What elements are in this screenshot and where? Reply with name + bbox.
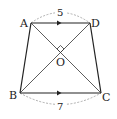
- vertex-label-A: A: [19, 17, 29, 30]
- parallel-arrow-icon: [57, 91, 62, 96]
- vertex-label-B: B: [9, 89, 17, 102]
- top-length-label: 5: [57, 7, 63, 18]
- center-label-O: O: [56, 56, 65, 69]
- right-angle-icon: [57, 46, 64, 53]
- vertex-label-C: C: [102, 91, 110, 104]
- bottom-length-label: 7: [57, 101, 63, 112]
- vertex-label-D: D: [91, 17, 100, 30]
- trapezoid-diagram: A D B C O 5 7: [0, 0, 117, 119]
- diagonal-AC: [31, 23, 101, 93]
- side-AB: [20, 23, 31, 93]
- side-DC: [90, 23, 101, 93]
- parallel-arrow-icon: [57, 21, 62, 26]
- diagonal-BD: [20, 23, 90, 93]
